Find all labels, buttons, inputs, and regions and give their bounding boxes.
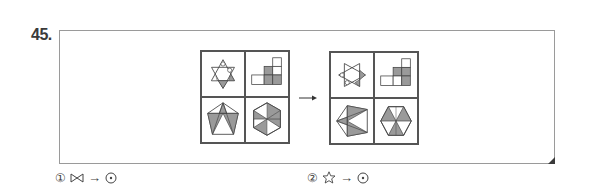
cell-hexagon — [245, 97, 289, 143]
circled-dot-icon — [105, 172, 117, 184]
circled-dot-icon — [357, 172, 369, 184]
option-arrow: → — [88, 170, 101, 185]
hexagon-icon — [246, 98, 288, 142]
cell-pentagon — [201, 97, 245, 143]
pentagon-icon — [202, 98, 244, 142]
cell-hexagram — [201, 51, 245, 97]
answer-option-2[interactable]: ② → — [307, 170, 369, 185]
hexagon-after-icon — [375, 99, 417, 143]
hexagram-rotated-icon — [331, 53, 373, 97]
cell-pentagon-rotated — [330, 98, 374, 144]
bowtie-icon — [70, 173, 84, 183]
answer-option-1[interactable]: ① → — [55, 170, 117, 185]
figure-grid-after — [329, 51, 419, 145]
hexagram-icon — [202, 52, 244, 96]
option-number: ② — [307, 171, 318, 185]
cell-hexagram-rotated — [330, 52, 374, 98]
cell-staircase — [245, 51, 289, 97]
staircase-icon — [246, 52, 288, 96]
folded-corner-icon — [548, 157, 555, 164]
option-arrow: → — [340, 170, 353, 185]
star-outline-icon — [322, 171, 336, 184]
staircase-after-icon — [375, 53, 417, 97]
option-number: ① — [55, 171, 66, 185]
cell-staircase-after — [374, 52, 418, 98]
pentagon-rotated-icon — [331, 99, 373, 143]
figure-grid-before — [200, 50, 290, 144]
cell-hexagon-after — [374, 98, 418, 144]
transform-arrow-icon — [298, 93, 318, 103]
question-number: 45. — [31, 26, 52, 44]
